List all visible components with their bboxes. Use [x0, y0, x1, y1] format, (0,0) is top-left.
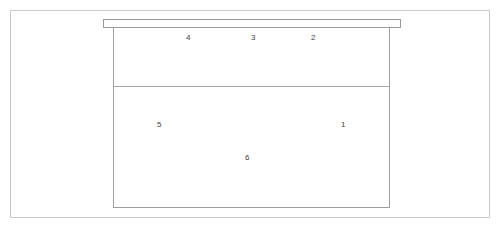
callout-3: 3 [251, 33, 256, 43]
callout-4: 4 [186, 33, 191, 43]
diagram-canvas: 4 3 2 5 1 6 [0, 0, 503, 229]
horizontal-divider [113, 86, 390, 87]
main-box [113, 27, 390, 208]
callout-6: 6 [245, 153, 250, 163]
callout-2: 2 [311, 33, 316, 43]
callout-1: 1 [341, 120, 346, 130]
callout-5: 5 [157, 120, 162, 130]
